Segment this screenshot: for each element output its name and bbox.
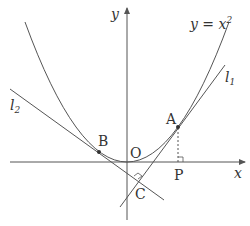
point-a-label: A	[165, 111, 177, 127]
right-angle-mark-p	[178, 157, 183, 162]
point-b	[97, 150, 101, 154]
point-a	[176, 125, 180, 129]
line-l1-label: l1	[225, 69, 235, 87]
line-l2-label: l2	[10, 97, 20, 115]
origin-label: O	[130, 145, 141, 161]
y-axis-label: y	[110, 6, 120, 22]
diagram-canvas: y x O y = x2 l1 l2 A B C P	[0, 0, 250, 226]
point-c-label: C	[135, 186, 146, 202]
x-axis-label: x	[234, 165, 242, 181]
curve-label: y = x2	[189, 15, 232, 32]
point-p-label: P	[174, 167, 183, 183]
point-b-label: B	[98, 133, 108, 149]
